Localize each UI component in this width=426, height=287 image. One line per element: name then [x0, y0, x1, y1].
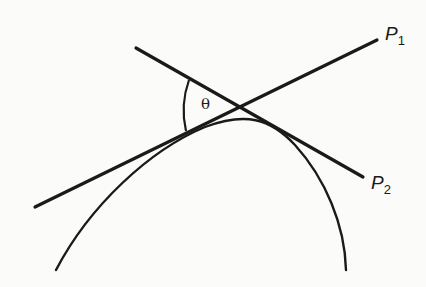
- point-p1-label: P1: [385, 23, 405, 48]
- p1-main: P: [385, 23, 398, 44]
- line-to-p2: [136, 48, 363, 177]
- diagram-canvas: θ P1 P2: [0, 0, 426, 287]
- p1-sub: 1: [398, 33, 405, 48]
- p2-main: P: [371, 172, 384, 193]
- line-to-p1: [35, 40, 377, 207]
- angle-arc: [184, 80, 189, 131]
- angle-theta-label: θ: [201, 95, 210, 113]
- diagram-svg: [0, 0, 426, 287]
- theta-text: θ: [201, 95, 210, 113]
- point-p2-label: P2: [371, 172, 391, 197]
- p2-sub: 2: [384, 182, 391, 197]
